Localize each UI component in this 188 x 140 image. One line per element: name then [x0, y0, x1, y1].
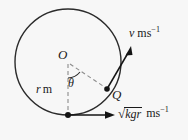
label-angle-theta: θ: [68, 77, 74, 89]
label-radius-unit: m: [43, 82, 52, 96]
label-velocity-unit-text: ms: [137, 26, 151, 40]
label-bottom-speed-radicand: kgr: [124, 107, 142, 120]
label-bottom-speed: √kgrms−1: [118, 107, 169, 120]
label-radius-symbol: r: [36, 82, 41, 96]
label-bottom-speed-unit-text: ms: [146, 106, 160, 120]
circular-motion-diagram: O θ Q rm vms−1 √kgrms−1: [0, 0, 188, 140]
label-bottom-speed-unit: ms−1: [146, 107, 169, 119]
label-velocity: vms−1: [129, 27, 160, 39]
label-radius: rm: [36, 83, 52, 95]
label-velocity-unit-exponent: −1: [151, 25, 160, 34]
label-bottom-speed-unit-exponent: −1: [160, 105, 169, 114]
label-point-q: Q: [112, 88, 121, 101]
bottom-arrow-head: [105, 111, 115, 119]
label-centre-o: O: [58, 48, 67, 61]
velocity-arrow-shaft: [107, 53, 128, 89]
label-velocity-symbol: v: [129, 26, 134, 40]
velocity-arrow-head: [126, 46, 133, 56]
label-velocity-unit: ms−1: [137, 26, 160, 40]
